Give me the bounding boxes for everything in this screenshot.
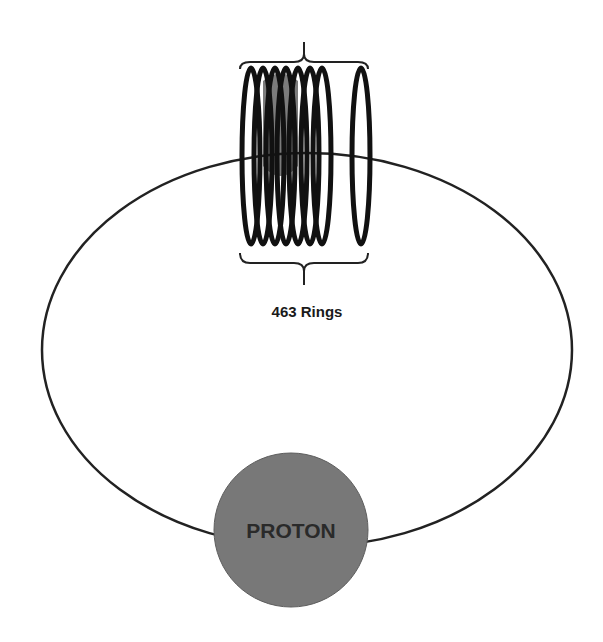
- ring-proton-diagram: 463 Rings PROTON: [0, 0, 603, 642]
- top-brace: [240, 42, 368, 69]
- ring: [313, 68, 331, 244]
- proton-label: PROTON: [246, 519, 335, 542]
- ring-count-label: 463 Rings: [272, 303, 343, 320]
- bottom-brace: [240, 253, 368, 285]
- diagram-canvas: 463 Rings PROTON: [0, 0, 603, 642]
- ring-stack: [242, 68, 370, 244]
